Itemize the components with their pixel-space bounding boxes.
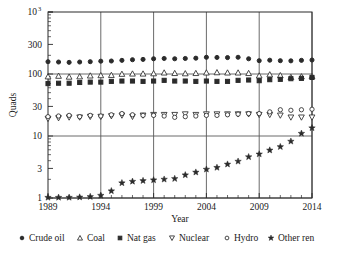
marker-filled-circle bbox=[257, 59, 261, 63]
marker-filled-star bbox=[45, 194, 51, 200]
marker-filled-square bbox=[278, 77, 282, 81]
marker-open-circle bbox=[278, 108, 282, 112]
x-tick-label: 1994 bbox=[91, 202, 110, 212]
marker-filled-star bbox=[108, 188, 114, 194]
legend-label: Hydro bbox=[234, 233, 259, 243]
marker-filled-star bbox=[140, 177, 146, 183]
marker-open-triangle-up bbox=[130, 71, 136, 76]
marker-filled-circle bbox=[20, 236, 24, 240]
marker-open-triangle-down bbox=[277, 113, 283, 118]
marker-filled-square bbox=[78, 80, 82, 84]
legend-item-hydro[interactable]: Hydro bbox=[225, 233, 258, 243]
marker-open-circle bbox=[236, 112, 240, 116]
y-tick-label: 10 bbox=[33, 131, 43, 141]
marker-filled-star bbox=[76, 194, 82, 200]
marker-open-triangle-down bbox=[288, 115, 294, 120]
marker-open-triangle-up bbox=[98, 73, 104, 78]
marker-filled-circle bbox=[152, 57, 156, 61]
marker-filled-star bbox=[182, 172, 188, 178]
y-tick-label-exponent: 3 bbox=[38, 5, 41, 12]
marker-filled-star bbox=[214, 164, 220, 170]
marker-filled-square bbox=[204, 79, 208, 83]
marker-open-triangle-up bbox=[235, 70, 241, 75]
marker-filled-star bbox=[267, 147, 273, 153]
marker-filled-circle bbox=[310, 58, 314, 62]
x-tick-label: 2009 bbox=[250, 202, 269, 212]
marker-filled-square bbox=[120, 79, 124, 83]
marker-open-circle bbox=[99, 114, 103, 118]
marker-filled-square bbox=[152, 79, 156, 83]
series-coal bbox=[45, 70, 315, 80]
marker-open-triangle-up bbox=[151, 71, 157, 76]
legend-item-nat-gas[interactable]: Nat gas bbox=[118, 233, 156, 243]
marker-open-circle bbox=[194, 114, 198, 118]
marker-filled-circle bbox=[278, 59, 282, 63]
marker-filled-square bbox=[67, 81, 71, 85]
marker-filled-star bbox=[288, 138, 294, 144]
x-tick-label: 1999 bbox=[144, 202, 163, 212]
marker-filled-star bbox=[161, 176, 167, 182]
marker-open-circle bbox=[67, 113, 71, 117]
marker-open-circle bbox=[310, 107, 314, 111]
marker-open-circle bbox=[173, 115, 177, 119]
marker-filled-square bbox=[141, 79, 145, 83]
x-tick-label: 2004 bbox=[197, 202, 216, 212]
marker-filled-square bbox=[183, 79, 187, 83]
marker-open-circle bbox=[299, 108, 303, 112]
marker-filled-circle bbox=[194, 56, 198, 60]
marker-filled-circle bbox=[78, 60, 82, 64]
marker-filled-circle bbox=[215, 55, 219, 59]
marker-filled-square bbox=[173, 79, 177, 83]
marker-filled-circle bbox=[99, 59, 103, 63]
marker-filled-square bbox=[215, 79, 219, 83]
marker-filled-star bbox=[224, 161, 230, 167]
legend-item-nuclear[interactable]: Nuclear bbox=[169, 233, 209, 243]
marker-filled-circle bbox=[183, 56, 187, 60]
series-crude-oil bbox=[46, 55, 314, 64]
plot-frame bbox=[48, 12, 312, 198]
legend-item-crude-oil[interactable]: Crude oil bbox=[20, 233, 65, 243]
marker-filled-square bbox=[118, 236, 122, 240]
marker-open-triangle-up bbox=[77, 235, 82, 240]
data-points bbox=[45, 55, 315, 200]
marker-filled-star bbox=[119, 180, 125, 186]
marker-open-triangle-up bbox=[161, 70, 167, 75]
y-tick-label: 3 bbox=[37, 164, 42, 174]
marker-filled-circle bbox=[289, 59, 293, 63]
legend-label: Other ren bbox=[278, 233, 314, 243]
legend-label: Crude oil bbox=[29, 233, 65, 243]
x-tick-label: 2014 bbox=[303, 202, 322, 212]
legend-label: Nat gas bbox=[127, 233, 156, 243]
marker-filled-circle bbox=[46, 60, 50, 64]
marker-filled-square bbox=[130, 79, 134, 83]
series-nuclear bbox=[45, 112, 315, 122]
marker-open-circle bbox=[46, 115, 50, 119]
y-tick-label: 30 bbox=[33, 102, 43, 112]
marker-filled-square bbox=[289, 77, 293, 81]
marker-open-circle bbox=[225, 113, 229, 117]
marker-filled-circle bbox=[225, 56, 229, 60]
marker-open-circle bbox=[183, 115, 187, 119]
marker-filled-circle bbox=[173, 57, 177, 61]
marker-open-circle bbox=[289, 108, 293, 112]
marker-filled-star bbox=[277, 143, 283, 149]
marker-open-circle bbox=[78, 115, 82, 119]
energy-consumption-chart-figure: 131030100300103198919941999200420092014Y… bbox=[0, 0, 339, 257]
marker-filled-star bbox=[193, 169, 199, 175]
marker-open-triangle-up bbox=[66, 74, 72, 79]
marker-open-triangle-down bbox=[309, 115, 315, 120]
legend-item-other-ren[interactable]: Other ren bbox=[268, 233, 314, 243]
marker-open-circle bbox=[257, 111, 261, 115]
marker-open-circle bbox=[141, 113, 145, 117]
marker-open-circle bbox=[56, 114, 60, 118]
marker-filled-square bbox=[268, 78, 272, 82]
x-axis-title: Year bbox=[171, 214, 189, 224]
marker-filled-circle bbox=[88, 60, 92, 64]
marker-open-triangle-up bbox=[246, 70, 252, 75]
marker-filled-circle bbox=[57, 60, 61, 64]
marker-filled-square bbox=[46, 82, 50, 86]
marker-open-circle bbox=[268, 110, 272, 114]
legend-item-coal[interactable]: Coal bbox=[77, 233, 105, 243]
marker-filled-star bbox=[298, 130, 304, 136]
marker-open-triangle-up bbox=[108, 72, 114, 77]
